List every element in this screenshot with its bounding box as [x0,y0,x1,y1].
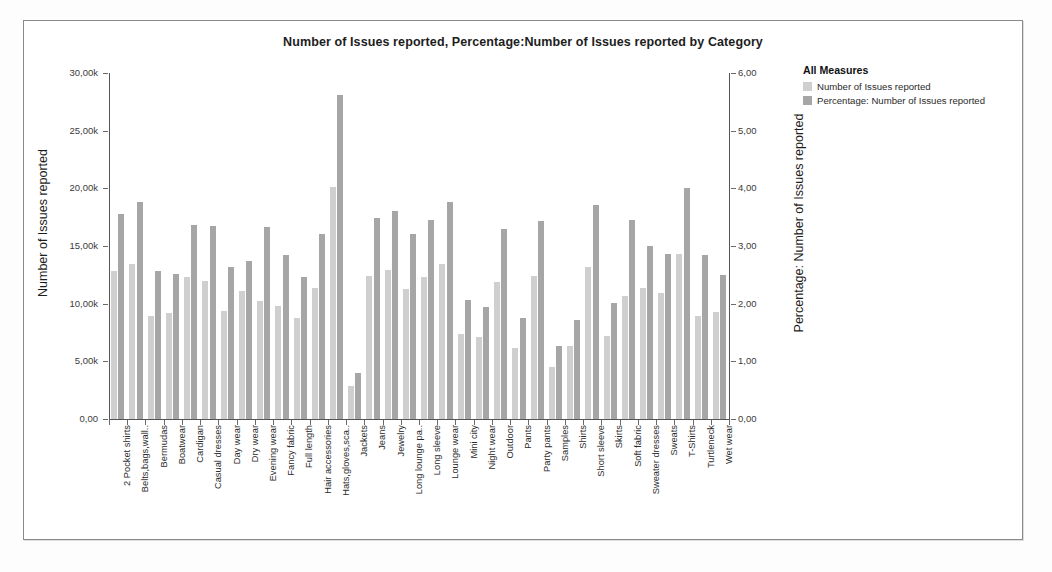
bar-group[interactable] [437,73,455,419]
bar-number-of-issues[interactable] [221,311,227,419]
bar-percentage-number-of-issues[interactable] [210,226,216,419]
bar-number-of-issues[interactable] [567,346,573,419]
bar-number-of-issues[interactable] [366,276,372,419]
bar-number-of-issues[interactable] [494,282,500,419]
bar-percentage-number-of-issues[interactable] [355,373,361,419]
bar-group[interactable] [255,73,273,419]
bar-number-of-issues[interactable] [622,296,628,419]
bar-number-of-issues[interactable] [312,288,318,419]
bar-group[interactable] [583,73,601,419]
bar-group[interactable] [127,73,145,419]
bar-number-of-issues[interactable] [129,264,135,419]
bar-group[interactable] [109,73,127,419]
bar-number-of-issues[interactable] [148,316,154,419]
bar-percentage-number-of-issues[interactable] [465,300,471,419]
bar-number-of-issues[interactable] [421,277,427,419]
bar-group[interactable] [565,73,583,419]
bar-percentage-number-of-issues[interactable] [173,274,179,419]
bar-number-of-issues[interactable] [676,254,682,419]
bar-percentage-number-of-issues[interactable] [593,205,599,419]
bar-group[interactable] [620,73,638,419]
bar-number-of-issues[interactable] [348,386,354,419]
bar-percentage-number-of-issues[interactable] [428,220,434,419]
bar-group[interactable] [528,73,546,419]
bar-number-of-issues[interactable] [184,277,190,419]
bar-number-of-issues[interactable] [658,293,664,419]
bar-group[interactable] [401,73,419,419]
bar-percentage-number-of-issues[interactable] [118,214,124,419]
bar-number-of-issues[interactable] [257,301,263,419]
bar-number-of-issues[interactable] [403,289,409,419]
bar-number-of-issues[interactable] [531,276,537,419]
bar-group[interactable] [455,73,473,419]
bar-percentage-number-of-issues[interactable] [647,246,653,419]
bar-percentage-number-of-issues[interactable] [137,202,143,419]
bar-group[interactable] [310,73,328,419]
bar-number-of-issues[interactable] [585,267,591,419]
bar-group[interactable] [182,73,200,419]
bar-percentage-number-of-issues[interactable] [191,225,197,419]
bar-group[interactable] [164,73,182,419]
bar-percentage-number-of-issues[interactable] [684,188,690,419]
bar-percentage-number-of-issues[interactable] [447,202,453,419]
bar-percentage-number-of-issues[interactable] [556,346,562,419]
bar-percentage-number-of-issues[interactable] [720,275,726,419]
bar-group[interactable] [638,73,656,419]
bar-group[interactable] [693,73,711,419]
bar-number-of-issues[interactable] [166,313,172,419]
bar-percentage-number-of-issues[interactable] [574,320,580,419]
bar-number-of-issues[interactable] [239,291,245,419]
bar-percentage-number-of-issues[interactable] [629,220,635,419]
bar-percentage-number-of-issues[interactable] [501,229,507,419]
bar-percentage-number-of-issues[interactable] [665,254,671,420]
bar-group[interactable] [218,73,236,419]
bar-percentage-number-of-issues[interactable] [319,234,325,419]
bar-number-of-issues[interactable] [640,288,646,419]
bar-number-of-issues[interactable] [111,271,117,419]
bar-number-of-issues[interactable] [476,337,482,419]
bar-number-of-issues[interactable] [695,316,701,419]
bar-group[interactable] [419,73,437,419]
bar-percentage-number-of-issues[interactable] [702,255,708,419]
bar-percentage-number-of-issues[interactable] [538,221,544,419]
bar-group[interactable] [364,73,382,419]
bar-percentage-number-of-issues[interactable] [228,267,234,419]
bar-number-of-issues[interactable] [330,187,336,419]
bar-group[interactable] [474,73,492,419]
bar-group[interactable] [674,73,692,419]
bar-group[interactable] [547,73,565,419]
bar-group[interactable] [601,73,619,419]
bar-percentage-number-of-issues[interactable] [337,95,343,419]
bar-group[interactable] [145,73,163,419]
bar-group[interactable] [510,73,528,419]
bar-number-of-issues[interactable] [512,348,518,420]
bar-number-of-issues[interactable] [458,334,464,419]
legend-item[interactable]: Percentage: Number of Issues reported [803,95,985,106]
bar-group[interactable] [346,73,364,419]
bar-percentage-number-of-issues[interactable] [392,211,398,419]
bar-number-of-issues[interactable] [202,281,208,419]
legend-item[interactable]: Number of Issues reported [803,81,985,92]
bar-group[interactable] [383,73,401,419]
bar-number-of-issues[interactable] [385,270,391,419]
bar-group[interactable] [237,73,255,419]
bar-group[interactable] [200,73,218,419]
bar-group[interactable] [711,73,729,419]
bar-group[interactable] [328,73,346,419]
bar-percentage-number-of-issues[interactable] [246,261,252,419]
bar-number-of-issues[interactable] [604,336,610,419]
bar-percentage-number-of-issues[interactable] [301,277,307,419]
bar-percentage-number-of-issues[interactable] [410,234,416,419]
bar-percentage-number-of-issues[interactable] [264,227,270,419]
bar-number-of-issues[interactable] [294,318,300,419]
bar-group[interactable] [656,73,674,419]
bar-percentage-number-of-issues[interactable] [155,271,161,419]
bar-group[interactable] [291,73,309,419]
bar-group[interactable] [492,73,510,419]
bar-group[interactable] [273,73,291,419]
bar-percentage-number-of-issues[interactable] [520,318,526,419]
bar-percentage-number-of-issues[interactable] [611,303,617,419]
bar-percentage-number-of-issues[interactable] [283,255,289,419]
bar-number-of-issues[interactable] [713,312,719,419]
bar-percentage-number-of-issues[interactable] [483,307,489,419]
